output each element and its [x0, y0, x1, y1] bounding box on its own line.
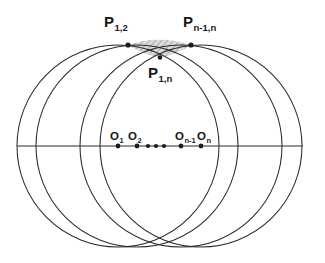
label-o-1-subscript: 1 [119, 136, 123, 145]
label-p-1-n-base: P [148, 64, 158, 81]
label-o-n-base: O [197, 130, 206, 142]
label-o-n-subscript: n [206, 136, 211, 145]
label-o-2: O2 [128, 127, 141, 143]
center-ellipsis-dot-3 [162, 144, 166, 148]
center-ellipsis-dot-2 [154, 144, 158, 148]
label-p-n-1-n-base: P [183, 13, 193, 30]
intersection-point-p12 [125, 42, 130, 47]
label-o-n-1-subscript: n-1 [184, 136, 195, 145]
label-o-n: On [197, 127, 211, 143]
label-o-2-base: O [128, 130, 137, 142]
center-point-on [199, 144, 204, 149]
center-point-on-1 [179, 144, 184, 149]
label-o-1: O1 [110, 127, 123, 143]
label-p-1-n-subscript: 1,n [159, 73, 173, 84]
label-o-1-base: O [110, 130, 119, 142]
figure-container: P1,2 Pn-1,n P1,n O1 O2 On-1 On [0, 0, 325, 263]
intersection-point-p1n [158, 55, 162, 59]
label-p-1-n: P1,n [148, 65, 172, 81]
label-p-1-2-base: P [104, 13, 114, 30]
label-p-n-1-n-subscript: n-1,n [194, 22, 217, 33]
intersection-point-pn1n [188, 42, 193, 47]
label-o-n-1-base: O [175, 130, 184, 142]
label-p-1-2: P1,2 [104, 14, 127, 30]
label-p-n-1-n: Pn-1,n [183, 14, 216, 30]
label-o-n-1: On-1 [175, 127, 195, 143]
label-p-1-2-subscript: 1,2 [115, 22, 128, 33]
center-ellipsis-dot-1 [146, 144, 150, 148]
label-o-2-subscript: 2 [137, 136, 141, 145]
circles-diagram-svg [0, 0, 325, 263]
